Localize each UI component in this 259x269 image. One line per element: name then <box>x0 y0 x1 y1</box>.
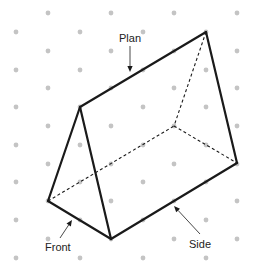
plan-arrowhead-icon <box>127 66 132 72</box>
grid-dot <box>109 124 114 129</box>
isometric-dot-grid <box>14 11 240 261</box>
grid-dot <box>141 180 146 185</box>
edge-ridge-top <box>80 32 206 107</box>
plan-label: Plan <box>119 32 141 44</box>
prism-diagram: Plan Front Side <box>0 0 259 269</box>
edge-bottom-right-side <box>111 163 237 239</box>
side-label: Side <box>189 238 211 250</box>
edge-front-left-to-front-right <box>48 201 111 239</box>
grid-dot <box>14 30 19 35</box>
edge-front-apex-to-front-left <box>48 107 80 201</box>
grid-dot <box>46 11 51 16</box>
grid-dot <box>204 68 209 73</box>
grid-dot <box>235 86 240 91</box>
grid-dot <box>14 256 19 261</box>
edge-back-apex-to-back-right <box>206 32 237 163</box>
grid-dot <box>46 49 51 54</box>
grid-dot <box>109 11 114 16</box>
edge-front-apex-to-front-right <box>80 107 111 239</box>
grid-dot <box>172 237 177 242</box>
grid-dot <box>204 105 209 110</box>
grid-dot <box>78 30 83 35</box>
visible-edges <box>48 32 237 239</box>
hidden-edge-front-left-to-back-left <box>48 126 174 201</box>
side-annotation: Side <box>174 206 211 250</box>
grid-dot <box>14 105 19 110</box>
grid-dot <box>14 68 19 73</box>
front-label: Front <box>45 241 71 253</box>
grid-dot <box>235 237 240 242</box>
grid-dot <box>235 11 240 16</box>
grid-dot <box>235 49 240 54</box>
grid-dot <box>14 180 19 185</box>
hidden-edge-back-apex-to-back-left <box>174 32 206 126</box>
grid-dot <box>14 143 19 148</box>
grid-dot <box>235 124 240 129</box>
side-arrow-icon <box>178 210 200 234</box>
grid-dot <box>109 199 114 204</box>
grid-dot <box>46 124 51 129</box>
front-arrowhead-icon <box>67 220 72 226</box>
grid-dot <box>141 105 146 110</box>
grid-dot <box>204 256 209 261</box>
grid-dot <box>235 199 240 204</box>
grid-dot <box>78 68 83 73</box>
grid-dot <box>172 162 177 167</box>
grid-dot <box>78 256 83 261</box>
front-arrow-icon <box>60 225 69 238</box>
grid-dot <box>78 143 83 148</box>
grid-dot <box>109 49 114 54</box>
grid-dot <box>46 86 51 91</box>
grid-dot <box>14 218 19 223</box>
grid-dot <box>204 218 209 223</box>
grid-dot <box>46 162 51 167</box>
grid-dot <box>172 11 177 16</box>
grid-dot <box>141 256 146 261</box>
plan-annotation: Plan <box>119 32 141 72</box>
grid-dot <box>141 30 146 35</box>
grid-dot <box>172 86 177 91</box>
front-annotation: Front <box>45 220 72 253</box>
